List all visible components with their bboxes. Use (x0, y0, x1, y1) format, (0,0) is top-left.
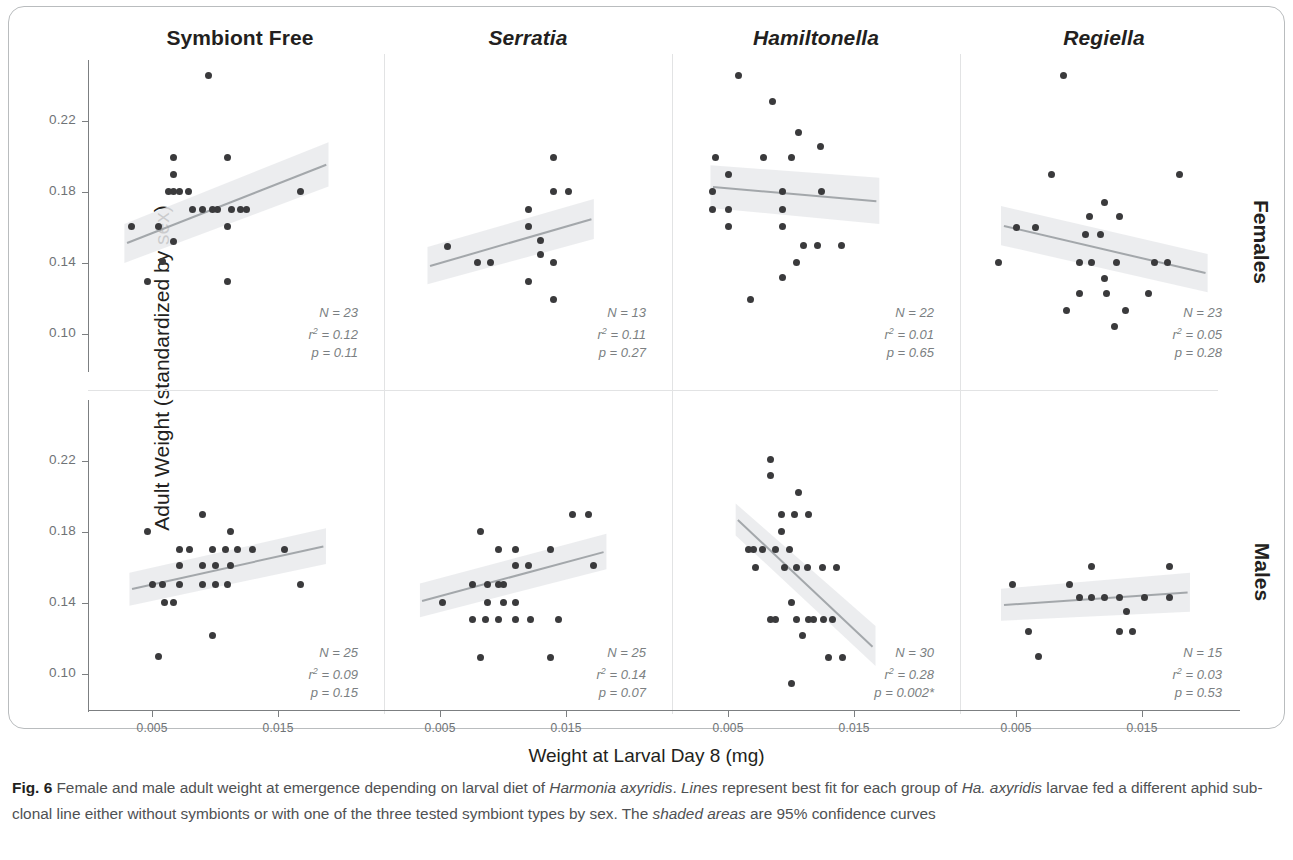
x-tick-label-symbiont-free-0: 0.005 (112, 721, 192, 735)
data-point (469, 616, 476, 623)
panel-females-hamiltonella: N = 22r2 = 0.01p = 0.65 (684, 64, 936, 366)
caption-part-4: Lines (681, 779, 718, 796)
data-point (281, 546, 288, 553)
data-point (793, 564, 800, 571)
data-point (1145, 290, 1152, 297)
data-point (820, 616, 827, 623)
stat-p: p = 0.11 (309, 344, 358, 362)
stat-n: N = 25 (309, 644, 358, 662)
y-tick-label-males-2: 0.14 (18, 594, 76, 609)
data-point (1101, 594, 1108, 601)
facet-separator-v3 (960, 54, 961, 714)
data-point (818, 188, 825, 195)
data-point (585, 511, 592, 518)
data-point (725, 171, 732, 178)
data-point (1066, 581, 1073, 588)
data-point (838, 242, 845, 249)
stat-n: N = 23 (309, 304, 358, 322)
stat-r2: r2 = 0.11 (597, 322, 646, 344)
data-point (189, 206, 196, 213)
data-point (155, 653, 162, 660)
caption-part-2: Harmonia axyridis (549, 779, 672, 796)
x-tick-regiella-0 (1016, 711, 1017, 717)
data-point (1103, 290, 1110, 297)
data-point (527, 616, 534, 623)
data-point (1063, 307, 1070, 314)
data-point (569, 511, 576, 518)
data-point (512, 546, 519, 553)
stat-p: p = 0.002* (874, 684, 934, 702)
panel-females-serratia: N = 13r2 = 0.11p = 0.27 (396, 64, 648, 366)
panel-title-serratia: Serratia (384, 26, 672, 50)
caption-part-0: Fig. 6 (12, 779, 56, 796)
data-point (788, 680, 795, 687)
data-point (1013, 224, 1020, 231)
panel-males-symbiont-free: N = 25r2 = 0.09p = 0.15 (108, 404, 360, 706)
y-tick-label-males-1: 0.18 (18, 523, 76, 538)
data-point (767, 456, 774, 463)
x-tick-label-serratia-1: 0.015 (526, 721, 606, 735)
data-point (537, 251, 544, 258)
data-point (547, 654, 554, 661)
data-point (149, 581, 156, 588)
data-point (772, 616, 779, 623)
y-tick-label-females-0: 0.22 (18, 112, 76, 127)
x-tick-label-regiella-0: 0.005 (976, 721, 1056, 735)
data-point (1101, 275, 1108, 282)
panel-males-hamiltonella: N = 30r2 = 0.28p = 0.002* (684, 404, 936, 706)
data-point (495, 581, 502, 588)
panel-females-regiella: N = 23r2 = 0.05p = 0.28 (972, 64, 1224, 366)
y-tick-males-0 (82, 461, 88, 462)
panel-title-hamiltonella: Hamiltonella (672, 26, 960, 50)
data-point (550, 154, 557, 161)
data-point (1032, 224, 1039, 231)
data-point (786, 546, 793, 553)
data-point (439, 599, 446, 606)
stat-r2: r2 = 0.03 (1173, 662, 1222, 684)
data-point (484, 599, 491, 606)
panel-stats: N = 15r2 = 0.03p = 0.53 (1173, 644, 1222, 702)
x-tick-label-symbiont-free-1: 0.015 (238, 721, 318, 735)
panel-stats: N = 23r2 = 0.05p = 0.28 (1173, 304, 1222, 362)
stat-r2: r2 = 0.05 (1173, 322, 1222, 344)
data-point (477, 654, 484, 661)
data-point (144, 528, 151, 535)
data-point (1035, 653, 1042, 660)
facet-separator-h1 (88, 390, 1218, 391)
data-point (495, 616, 502, 623)
facet-separator-v2 (672, 54, 673, 714)
y-tick-label-females-3: 0.10 (18, 325, 76, 340)
data-point (1082, 231, 1089, 238)
best-fit-line (738, 519, 874, 647)
stat-p: p = 0.27 (597, 344, 646, 362)
data-point (224, 278, 231, 285)
panel-females-symbiont-free: N = 23r2 = 0.12p = 0.11 (108, 64, 360, 366)
data-point (1076, 259, 1083, 266)
stat-r2: r2 = 0.09 (309, 662, 358, 684)
x-tick-serratia-1 (566, 711, 567, 717)
data-point (224, 154, 231, 161)
caption-part-8: shaded areas (652, 805, 745, 822)
data-point (525, 278, 532, 285)
data-point (555, 616, 562, 623)
data-point (778, 511, 785, 518)
stat-n: N = 15 (1173, 644, 1222, 662)
data-point (833, 564, 840, 571)
x-tick-regiella-1 (1142, 711, 1143, 717)
data-point (185, 188, 192, 195)
data-point (477, 528, 484, 535)
x-axis-spine (88, 710, 1240, 711)
x-tick-hamiltonella-0 (728, 711, 729, 717)
stat-p: p = 0.65 (885, 344, 934, 362)
y-axis-spine-females (88, 60, 89, 372)
data-point (474, 259, 481, 266)
row-label-females: Females (1249, 197, 1273, 287)
data-point (237, 206, 244, 213)
data-point (512, 599, 519, 606)
stat-n: N = 25 (597, 644, 646, 662)
stat-p: p = 0.15 (309, 684, 358, 702)
data-point (1164, 259, 1171, 266)
x-tick-hamiltonella-1 (854, 711, 855, 717)
data-point (209, 632, 216, 639)
data-point (525, 223, 532, 230)
